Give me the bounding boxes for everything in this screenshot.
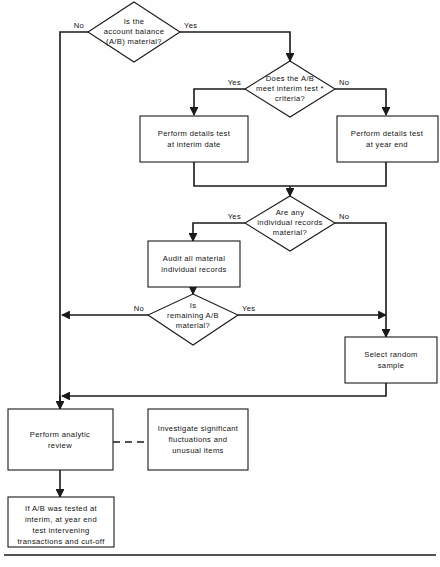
p6-line-3: unusual items <box>172 446 223 455</box>
process-if-ab-tested-at-interim[interactable]: If A/B was tested at interim, at year en… <box>8 497 114 547</box>
d2-line-2: meet interim test * <box>256 84 324 93</box>
p4-line-1: Select random <box>364 350 418 359</box>
edge-label-d1-yes: Yes <box>184 21 197 30</box>
d1-line-1: Is the <box>124 17 145 26</box>
process-select-random-sample[interactable]: Select random sample <box>345 337 437 383</box>
p6-line-1: Investigate significant <box>158 424 239 433</box>
p1-line-2: at interim date <box>167 140 220 149</box>
d3-line-2: individual records <box>257 218 322 227</box>
p6-line-2: fluctuations and <box>169 435 228 444</box>
decision-individual-records-material[interactable]: Are any individual records material? <box>245 196 335 251</box>
p5-line-1: Perform analytic <box>30 430 90 439</box>
d4-line-3: material? <box>176 321 210 330</box>
connector-d3-no <box>335 223 386 315</box>
connector-d1-no <box>60 32 88 409</box>
connector-d2-yes <box>194 89 245 115</box>
edge-label-d4-no: No <box>134 304 144 313</box>
edge-label-d4-yes: Yes <box>242 304 255 313</box>
process-investigate-significant-fluctuations[interactable]: Investigate significant fluctuations and… <box>148 409 248 470</box>
edge-label-d2-yes: Yes <box>228 78 241 87</box>
edge-label-d3-no: No <box>339 212 349 221</box>
flowchart-canvas: Is the account balance (A/B) material? N… <box>0 0 440 567</box>
d4-line-1: Is <box>190 301 197 310</box>
connector-d1-yes <box>180 32 290 61</box>
process-perform-details-test-interim[interactable]: Perform details test at interim date <box>140 116 248 162</box>
d2-line-1: Does the A/B <box>266 74 315 83</box>
connector-p4-spine <box>62 383 386 396</box>
p2-line-1: Perform details test <box>351 129 424 138</box>
p1-line-1: Perform details test <box>158 129 231 138</box>
d1-line-3: (A/B) material? <box>106 37 162 46</box>
p4-line-2: sample <box>378 361 405 370</box>
d1-line-2: account balance <box>104 27 165 36</box>
process-perform-details-test-year-end[interactable]: Perform details test at year end <box>337 116 438 162</box>
decision-remaining-ab-material[interactable]: Is remaining A/B material? <box>148 294 238 345</box>
p7-line-2: interim, at year end <box>25 515 97 524</box>
process-audit-all-material-individual-records[interactable]: Audit all material individual records <box>148 241 240 287</box>
p3-line-2: individual records <box>161 265 226 274</box>
edge-label-d1-no: No <box>74 21 84 30</box>
edge-label-d3-yes: Yes <box>228 212 241 221</box>
edge-label-d2-no: No <box>339 78 349 87</box>
d3-line-3: material? <box>273 228 307 237</box>
process-perform-analytic-review[interactable]: Perform analytic review <box>8 409 113 470</box>
p5-line-2: review <box>48 441 72 450</box>
flowchart-page: Is the account balance (A/B) material? N… <box>0 0 440 567</box>
p7-line-4: transactions and cut-off <box>17 537 105 546</box>
decision-meets-interim-test-criteria[interactable]: Does the A/B meet interim test * criteri… <box>245 61 335 117</box>
decision-account-balance-material[interactable]: Is the account balance (A/B) material? <box>88 2 180 62</box>
d3-line-1: Are any <box>276 208 305 217</box>
p7-line-3: test intervening <box>32 526 89 535</box>
connector-d2-no <box>335 89 386 115</box>
p3-line-1: Audit all material <box>163 254 225 263</box>
p7-line-1: If A/B was tested at <box>25 504 98 513</box>
p2-line-2: at year end <box>366 140 408 149</box>
d4-line-2: remaining A/B <box>167 311 219 320</box>
connector-p1-merge <box>194 162 290 186</box>
d2-line-3: criteria? <box>275 94 305 103</box>
connector-d3-yes <box>193 223 245 241</box>
connector-p2-merge <box>290 162 386 186</box>
